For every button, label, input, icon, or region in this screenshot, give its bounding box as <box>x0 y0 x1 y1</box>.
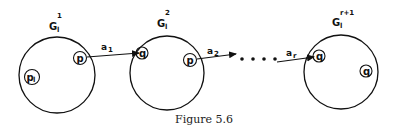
edge-a1: a 1 <box>87 42 139 57</box>
svg-text:q: q <box>363 66 370 77</box>
svg-text:a: a <box>286 48 292 58</box>
node-q: q <box>360 65 372 77</box>
svg-text:r: r <box>293 52 297 60</box>
svg-text:q: q <box>139 48 146 59</box>
node-p: p <box>74 52 87 65</box>
node-p1: p l <box>25 70 40 85</box>
svg-text:2: 2 <box>214 50 219 58</box>
svg-text:a: a <box>101 42 107 52</box>
svg-text:p: p <box>77 53 84 64</box>
graph-g1-name: G <box>49 21 57 32</box>
edge-a2: a 2 <box>197 46 236 59</box>
svg-text:p: p <box>187 55 194 66</box>
figure-caption: Figure 5.6 <box>175 113 233 126</box>
graph-gr1-sub: l <box>340 22 342 30</box>
figure-diagram: G l 1 p p l a 1 G l 2 q p <box>0 0 398 133</box>
graph-g1: G l 1 p p l <box>19 12 95 113</box>
graph-g2-sup: 2 <box>165 9 170 17</box>
graph-gr1: G l r+1 q q <box>304 9 378 109</box>
svg-text:q: q <box>316 51 323 62</box>
graph-g2-sub: l <box>165 23 167 31</box>
svg-text:1: 1 <box>108 46 113 54</box>
node-q: q <box>313 50 325 62</box>
svg-text:a: a <box>207 46 213 56</box>
graph-gr1-name: G <box>332 17 340 28</box>
graph-g2: G l 2 q p <box>130 9 204 110</box>
graph-gr1-sup: r+1 <box>340 9 354 17</box>
node-p: p <box>184 54 197 67</box>
graph-g1-sup: 1 <box>57 12 62 20</box>
graph-g1-sub: l <box>57 26 59 34</box>
graph-g2-name: G <box>157 18 165 29</box>
ellipsis <box>240 57 277 61</box>
svg-text:l: l <box>33 76 35 84</box>
